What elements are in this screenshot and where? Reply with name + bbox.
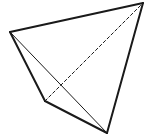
edge-left-to-bottom-left xyxy=(10,32,45,101)
edge-left-to-bottom xyxy=(10,32,107,133)
edge-left-to-top-right xyxy=(10,3,143,32)
edge-bottom-left-to-top-right-hidden xyxy=(45,3,143,101)
edge-bottom-left-to-bottom xyxy=(45,101,107,133)
edge-bottom-to-top-right xyxy=(107,3,143,133)
tetrahedron-diagram xyxy=(0,0,148,140)
tetrahedron-figure xyxy=(0,0,148,140)
